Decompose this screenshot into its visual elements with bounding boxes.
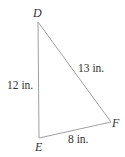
vertex-label-e: E bbox=[34, 140, 43, 154]
triangle-diagram: D E F 12 in. 13 in. 8 in. bbox=[0, 0, 125, 157]
side-label-df: 13 in. bbox=[78, 62, 104, 74]
triangle-def bbox=[38, 22, 111, 138]
vertex-label-d: D bbox=[32, 6, 42, 20]
side-label-ef: 8 in. bbox=[68, 133, 89, 145]
vertex-label-f: F bbox=[111, 116, 120, 130]
side-label-de: 12 in. bbox=[7, 79, 33, 91]
